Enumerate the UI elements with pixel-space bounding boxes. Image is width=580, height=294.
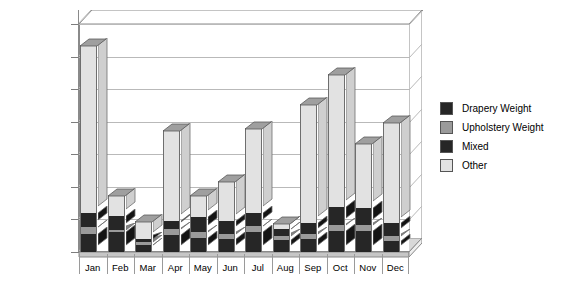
x-axis-label: Oct — [327, 262, 355, 282]
bar-segment[interactable] — [80, 227, 97, 234]
x-axis-separator — [134, 254, 135, 274]
gridline-depth-riser — [409, 141, 422, 155]
x-axis-separator — [408, 254, 409, 274]
bar-segment[interactable] — [80, 45, 97, 213]
bar-segment[interactable] — [383, 241, 400, 252]
bar-segment[interactable] — [383, 122, 400, 224]
legend-label: Mixed — [462, 141, 489, 152]
x-axis-separator — [162, 254, 163, 274]
bar-segment[interactable] — [300, 223, 317, 235]
legend-item[interactable]: Other — [440, 156, 575, 175]
bar-segment[interactable] — [273, 229, 290, 236]
legend-swatch — [440, 159, 453, 172]
bar-segment-side — [373, 136, 382, 201]
bar-segment[interactable] — [383, 236, 400, 241]
bar-top-cap — [80, 38, 97, 45]
bar-segment-side — [318, 97, 327, 216]
bar-top-cap — [218, 174, 235, 181]
bar-segment[interactable] — [163, 221, 180, 229]
gridline-depth-riser — [409, 109, 422, 123]
bar-segment[interactable] — [218, 181, 235, 221]
bar-column[interactable] — [300, 24, 317, 252]
bar-segment[interactable] — [218, 234, 235, 239]
bar-segment[interactable] — [328, 231, 345, 252]
x-axis-label: Apr — [162, 262, 190, 282]
y-axis: $0$500$1,000$1,500$2,000$2,500$3,000$3,5… — [0, 0, 79, 294]
bar-segment[interactable] — [355, 231, 372, 252]
bar-segment[interactable] — [273, 240, 290, 252]
bar-segment[interactable] — [300, 104, 317, 223]
bar-segment[interactable] — [245, 232, 262, 252]
bar-column[interactable] — [135, 24, 152, 252]
bar-segment[interactable] — [190, 232, 207, 238]
legend-item[interactable]: Drapery Weight — [440, 99, 575, 118]
bar-segment[interactable] — [135, 239, 152, 242]
legend-item[interactable]: Upholstery Weight — [440, 118, 575, 137]
bar-segment[interactable] — [383, 223, 400, 235]
bar-segment[interactable] — [80, 213, 97, 227]
bar-column[interactable] — [245, 24, 262, 252]
bar-column[interactable] — [273, 24, 290, 252]
legend-label: Upholstery Weight — [462, 122, 544, 133]
bar-segment[interactable] — [108, 195, 125, 216]
bar-top-cap — [300, 97, 317, 104]
bar-column[interactable] — [190, 24, 207, 252]
bar-segment[interactable] — [163, 130, 180, 221]
bar-segment[interactable] — [190, 195, 207, 217]
bar-segment[interactable] — [218, 221, 235, 233]
bar-top-cap — [328, 67, 345, 74]
x-axis-label: Jul — [244, 262, 272, 282]
legend-item[interactable]: Mixed — [440, 137, 575, 156]
bar-segment[interactable] — [135, 245, 152, 252]
x-axis-label: Dec — [382, 262, 410, 282]
bar-column[interactable] — [163, 24, 180, 252]
bar-segment[interactable] — [218, 239, 235, 252]
bar-segment[interactable] — [273, 236, 290, 240]
x-axis-separator — [354, 254, 355, 274]
bar-segment[interactable] — [108, 230, 125, 233]
bar-segment[interactable] — [108, 216, 125, 230]
bar-segment[interactable] — [135, 242, 152, 245]
x-axis-separator — [299, 254, 300, 274]
bar-segment[interactable] — [163, 235, 180, 252]
bar-segment[interactable] — [355, 143, 372, 208]
bar-segment[interactable] — [190, 238, 207, 252]
x-axis-separator — [107, 254, 108, 274]
bar-column[interactable] — [218, 24, 235, 252]
bar-segment[interactable] — [328, 207, 345, 225]
bar-segment[interactable] — [163, 229, 180, 235]
bar-segment[interactable] — [135, 221, 152, 239]
bar-segment[interactable] — [245, 213, 262, 226]
legend-label: Drapery Weight — [462, 103, 531, 114]
x-axis-label: Jun — [217, 262, 245, 282]
bar-column[interactable] — [108, 24, 125, 252]
bar-column[interactable] — [383, 24, 400, 252]
bar-top-cap — [135, 214, 152, 221]
chart-legend: Drapery WeightUpholstery WeightMixedOthe… — [440, 99, 575, 175]
bar-segment[interactable] — [300, 234, 317, 239]
x-axis-separator — [189, 254, 190, 274]
plot-top-plane — [79, 10, 409, 24]
bar-top-cap — [190, 188, 207, 195]
bar-segment[interactable] — [328, 74, 345, 207]
gridline-depth-riser — [409, 174, 422, 188]
bar-segment[interactable] — [300, 239, 317, 252]
x-axis-separator — [79, 254, 80, 274]
x-axis: JanFebMarAprMayJunJulAugSepOctNovDec — [79, 262, 409, 282]
bar-segment[interactable] — [108, 232, 125, 252]
bar-series-group — [79, 24, 409, 252]
bar-segment[interactable] — [245, 226, 262, 233]
bar-segment-side — [346, 67, 355, 200]
bar-segment[interactable] — [190, 217, 207, 232]
bar-segment[interactable] — [328, 225, 345, 231]
x-axis-separator — [272, 254, 273, 274]
bar-segment[interactable] — [245, 128, 262, 213]
bar-segment[interactable] — [355, 225, 372, 230]
bar-column[interactable] — [80, 24, 97, 252]
bar-column[interactable] — [355, 24, 372, 252]
bar-top-cap — [245, 121, 262, 128]
bar-segment[interactable] — [80, 234, 97, 252]
x-axis-label: Aug — [272, 262, 300, 282]
bar-column[interactable] — [328, 24, 345, 252]
bar-segment[interactable] — [355, 208, 372, 226]
